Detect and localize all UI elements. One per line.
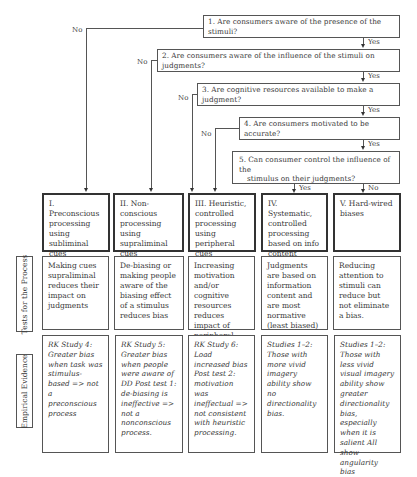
test-box: Increasing motivation and/or cognitive r… — [188, 256, 255, 330]
yes-label-5: Yes — [299, 184, 311, 192]
evidence-row-label: Empirical Evidence — [16, 354, 33, 428]
no-connector-1-h — [86, 28, 203, 29]
question-4-box: 4. Are consumers motivated to be accurat… — [239, 117, 400, 140]
evidence-text: RK Study 6: Load increased bias Post tes… — [194, 340, 248, 437]
arrow-down-icon — [84, 188, 88, 192]
no-label-4: No — [201, 130, 211, 138]
arrow-down-icon — [149, 188, 153, 192]
test-text: Making cues supraliminal reduces their i… — [48, 261, 99, 310]
yes-label-3: Yes — [368, 106, 380, 114]
evidence-text: RK Study 4: Greater bias when task was s… — [48, 340, 102, 418]
outcome-label: II. Non-conscious processing using supra… — [120, 199, 168, 258]
evidence-box: RK Study 5: Greater bias when people wer… — [115, 335, 183, 453]
no-connector-1-v — [86, 28, 87, 188]
evidence-box: Studies 1–2: Those with less vivid visua… — [334, 335, 401, 453]
arrow-down-icon — [361, 44, 365, 48]
yes-label-2: Yes — [368, 72, 380, 80]
arrow-down-icon — [190, 188, 194, 192]
outcome-preconscious: I. Preconscious processing using sublimi… — [42, 193, 110, 252]
question-4-text: 4. Are consumers motivated to be accurat… — [244, 119, 395, 138]
question-5-text-line1: 5. Can consumer control the influence of… — [239, 155, 390, 174]
arrow-down-icon — [361, 146, 365, 150]
outcome-label: IV. Systematic, controlled processing ba… — [268, 199, 319, 258]
question-5-box: 5. Can consumer control the influence of… — [232, 151, 400, 184]
outcome-label: III. Heuristic, controlled processing us… — [195, 199, 246, 258]
no-connector-3-v — [192, 94, 193, 188]
test-box: Judgments are based on information conte… — [261, 256, 328, 330]
outcome-systematic: IV. Systematic, controlled processing ba… — [261, 193, 328, 252]
evidence-text: Studies 1–2: Those with more vivid image… — [267, 340, 316, 418]
question-2-box: 2. Are consumers aware of the influence … — [157, 49, 400, 72]
outcome-heuristic: III. Heuristic, controlled processing us… — [188, 193, 256, 252]
outcome-non-conscious: II. Non-conscious processing using supra… — [113, 193, 184, 252]
evidence-text: Studies 1–2: Those with less vivid visua… — [340, 340, 394, 476]
no-label-5: No — [368, 184, 378, 192]
test-box: Reducing attention to stimuli can reduce… — [333, 256, 401, 330]
arrow-down-icon — [361, 112, 365, 116]
tests-row-label-text: Tests for the Process — [20, 254, 29, 333]
arrow-down-icon — [213, 188, 217, 192]
outcome-hard-wired: V. Hard-wired biases — [333, 193, 401, 252]
evidence-box: RK Study 6: Load increased bias Post tes… — [188, 335, 255, 453]
no-connector-4-h — [215, 128, 239, 129]
no-connector-2-v — [151, 60, 152, 188]
question-2-text: 2. Are consumers aware of the influence … — [162, 51, 395, 70]
arrow-down-icon — [361, 78, 365, 82]
yes-label-4: Yes — [368, 140, 380, 148]
no-label-1: No — [72, 26, 82, 34]
evidence-box: Studies 1–2: Those with more vivid image… — [261, 335, 328, 453]
tests-row-label: Tests for the Process — [16, 256, 33, 332]
question-3-box: 3. Are cognitive resources available to … — [197, 83, 400, 106]
no-label-3: No — [178, 94, 188, 102]
test-text: Judgments are based on information conte… — [267, 261, 318, 330]
no-connector-4-v — [215, 128, 216, 188]
outcome-label: I. Preconscious processing using sublimi… — [49, 199, 99, 258]
evidence-text: RK Study 5: Greater bias when people wer… — [121, 340, 176, 437]
evidence-row-label-text: Empirical Evidence — [20, 354, 29, 428]
question-5-text-line2: stimulus on their judgments? — [239, 174, 393, 184]
test-box: Making cues supraliminal reduces their i… — [42, 256, 109, 330]
yes-label-1: Yes — [368, 38, 380, 46]
evidence-box: RK Study 4: Greater bias when task was s… — [42, 335, 109, 453]
test-text: De-biasing or making people aware of the… — [120, 261, 176, 320]
test-text: Reducing attention to stimuli can reduce… — [339, 261, 389, 320]
question-1-box: 1. Are consumers aware of the presence o… — [203, 15, 400, 38]
no-label-2: No — [137, 58, 147, 66]
question-1-text: 1. Are consumers aware of the presence o… — [208, 17, 395, 36]
outcome-label: V. Hard-wired biases — [340, 199, 392, 218]
test-box: De-biasing or making people aware of the… — [114, 256, 184, 330]
question-3-text: 3. Are cognitive resources available to … — [202, 85, 395, 104]
